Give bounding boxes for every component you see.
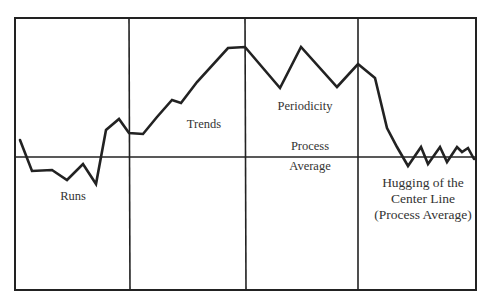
label-hugging-line-2: Center Line [368, 191, 478, 207]
divider-1 [129, 18, 130, 290]
label-hugging-line-1: Hugging of the [368, 175, 478, 191]
label-average: Average [280, 159, 340, 174]
divider-2 [245, 18, 246, 290]
label-periodicity: Periodicity [265, 99, 345, 114]
label-trends: Trends [174, 117, 234, 132]
label-process: Process [280, 139, 340, 154]
control-chart-diagram [0, 0, 492, 307]
process-data-line [20, 47, 474, 184]
label-runs: Runs [48, 189, 98, 204]
label-hugging-line-3: (Process Average) [363, 207, 483, 223]
